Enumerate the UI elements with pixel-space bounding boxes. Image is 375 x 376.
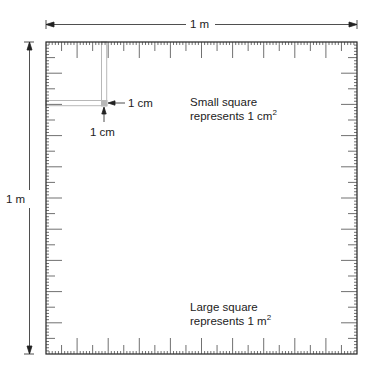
large-square-caption-line2: represents 1 m2 [190,314,271,328]
exponent: 2 [267,313,271,322]
arrow-up-icon [27,42,32,50]
small-square [102,101,107,106]
small-square-caption-line1: Small square [190,95,277,109]
exponent: 2 [272,108,276,117]
arrow-left-small-icon [108,101,115,105]
caption-text: represents 1 cm [190,110,272,122]
top-dimension-label: 1 m [188,17,211,31]
caption-text: represents 1 m [190,315,267,327]
arrow-down-icon [27,346,32,354]
area-diagram [0,0,375,376]
highlight-strips [46,42,107,106]
small-square-caption-line2: represents 1 cm2 [190,109,277,123]
left-dimension-label: 1 m [4,192,27,206]
column-strip [102,42,107,106]
arrow-up-small-icon [102,107,106,114]
row-strip [46,101,107,106]
arrow-left-icon [46,22,54,27]
large-square-caption-line1: Large square [190,300,271,314]
small-square-height-label: 1 cm [90,125,115,139]
small-square-caption: Small square represents 1 cm2 [190,95,277,123]
large-square-caption: Large square represents 1 m2 [190,300,271,328]
small-square-width-label: 1 cm [128,96,153,110]
arrow-right-icon [349,22,357,27]
